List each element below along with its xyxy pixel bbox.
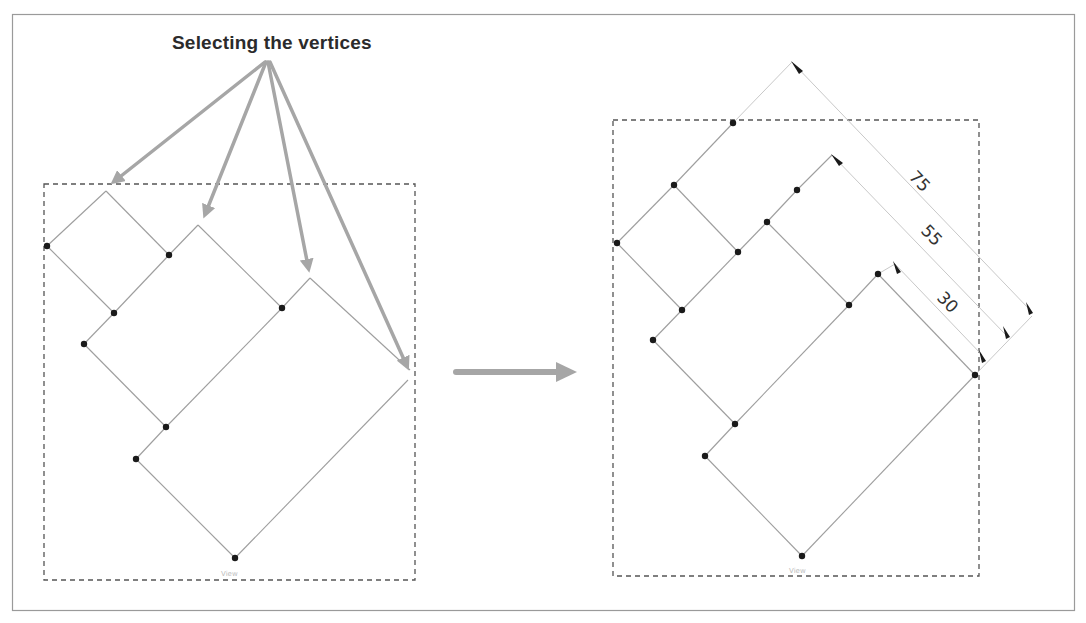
right-view [613,61,1033,576]
right-view-label: View [789,567,806,575]
vertex[interactable] [732,421,738,427]
vertex[interactable] [81,341,87,347]
vertex[interactable] [133,456,139,462]
vertex[interactable] [166,252,172,258]
vertex[interactable] [44,243,50,249]
callout-arrows [116,62,406,364]
vertex[interactable] [794,187,800,193]
left-outline-edges [47,191,410,558]
dimension-tick [979,350,986,363]
left-view [44,62,415,580]
figure-title: Selecting the vertices [172,32,372,54]
vertex[interactable] [972,372,978,378]
vertex[interactable] [614,240,620,246]
dimension-ticks [791,61,1033,363]
dimension-tick [791,61,803,74]
vertex[interactable] [735,249,741,255]
vertex[interactable] [702,453,708,459]
vertex[interactable] [764,219,770,225]
transition-arrow [456,362,577,382]
callout-arrow-3 [268,62,308,266]
left-view-border [44,184,415,580]
vertex[interactable] [232,555,238,561]
vertex[interactable] [279,305,285,311]
vertex[interactable] [671,182,677,188]
figure-canvas: Selecting the vertices 75 55 30 View Vie… [0,0,1086,623]
vertex[interactable] [799,553,805,559]
vertex[interactable] [111,310,117,316]
dimension-tick [1026,302,1033,315]
vertex[interactable] [163,424,169,430]
vertex[interactable] [875,271,881,277]
vertex[interactable] [650,337,656,343]
left-view-label: View [221,570,238,578]
vertex[interactable] [730,120,736,126]
vertex[interactable] [846,302,852,308]
left-vertices [44,243,285,561]
dimension-lines [733,62,1032,375]
dimension-tick [831,154,843,166]
callout-arrow-4 [270,62,406,364]
vertex[interactable] [679,307,685,313]
dimension-tick [893,261,901,274]
